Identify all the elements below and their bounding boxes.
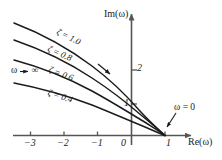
omega-infinity-text: ω → ∞ bbox=[11, 65, 38, 75]
x-tick-label-minus1: −1 bbox=[91, 138, 103, 148]
x-tick-label-minus3: −3 bbox=[24, 138, 36, 148]
omega-zero-leader-line bbox=[167, 113, 176, 127]
y-tick-label-1: 1 bbox=[124, 98, 129, 108]
curve-group bbox=[14, 23, 165, 136]
x-tick-label-0: 0 bbox=[121, 138, 126, 148]
y-tick-label-2: 2 bbox=[137, 63, 142, 73]
x-tick-label-1: 1 bbox=[166, 138, 171, 148]
figure-container: −3 −2 −1 0 1 1 2 Im(ω) Re(ω) ω → ∞ ω = 0… bbox=[0, 0, 222, 160]
y-axis-ticks bbox=[132, 70, 138, 104]
curve-zeta-0-4 bbox=[14, 83, 165, 136]
omega-infinity-annotation: ω → ∞ bbox=[11, 66, 38, 76]
x-tick-label-minus2: −2 bbox=[57, 138, 69, 148]
curve-zeta-1-0 bbox=[14, 23, 165, 136]
y-axis-title: Im(ω) bbox=[104, 9, 128, 19]
omega-zero-annotation: ω = 0 bbox=[174, 103, 195, 113]
x-axis-title: Re(ω) bbox=[188, 137, 212, 147]
